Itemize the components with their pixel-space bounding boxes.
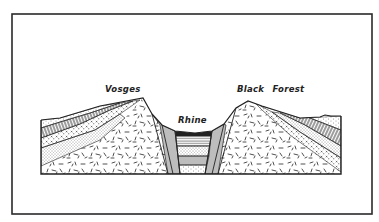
- cross-section-body: [41, 95, 341, 175]
- graben-fill-hlines: [176, 136, 211, 146]
- graben-fill-bottom: [179, 165, 207, 174]
- graben-fill-vlines: [178, 156, 209, 165]
- rhine-label: Rhine: [178, 115, 207, 125]
- figure-frame: [12, 14, 372, 214]
- rhine-rift-cross-section: Vosges Rhine Black Forest: [0, 0, 379, 222]
- black-forest-label: Black Forest: [237, 84, 305, 94]
- graben-fill-dots: [177, 146, 210, 156]
- vosges-label: Vosges: [105, 84, 141, 94]
